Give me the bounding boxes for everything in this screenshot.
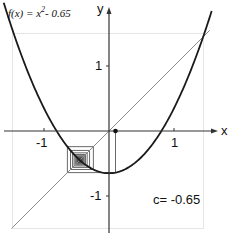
function-label-suffix: - 0.65 [45,7,71,19]
y-axis-label: y [97,1,104,16]
function-label: f(x) = x2- 0.65 [8,5,71,19]
x-tick-label-1: 1 [171,135,178,150]
start-point-marker [113,129,118,134]
parameter-label: c= -0.65 [153,192,200,207]
function-label-prefix: f(x) = x [8,7,41,19]
parabola-curve [4,3,212,174]
x-tick-label-neg1: -1 [36,135,48,150]
y-tick-label-1: 1 [95,58,102,73]
y-axis-arrow-icon [107,7,112,14]
x-axis-label: x [221,123,228,138]
cobweb-lines [67,131,115,173]
y-tick-label-neg1: -1 [90,188,102,203]
x-axis-arrow-icon [211,129,218,134]
